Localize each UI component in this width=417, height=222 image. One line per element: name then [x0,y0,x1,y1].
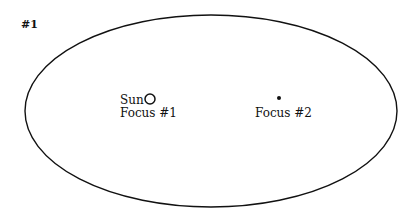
orbit-ellipse [25,15,397,207]
focus-1-label: Focus #1 [120,107,177,120]
focus-2-dot-icon [277,96,281,100]
figure-label: #1 [21,18,38,31]
orbit-diagram [0,0,417,222]
sun-icon [145,94,155,104]
focus-2-label: Focus #2 [255,107,312,120]
